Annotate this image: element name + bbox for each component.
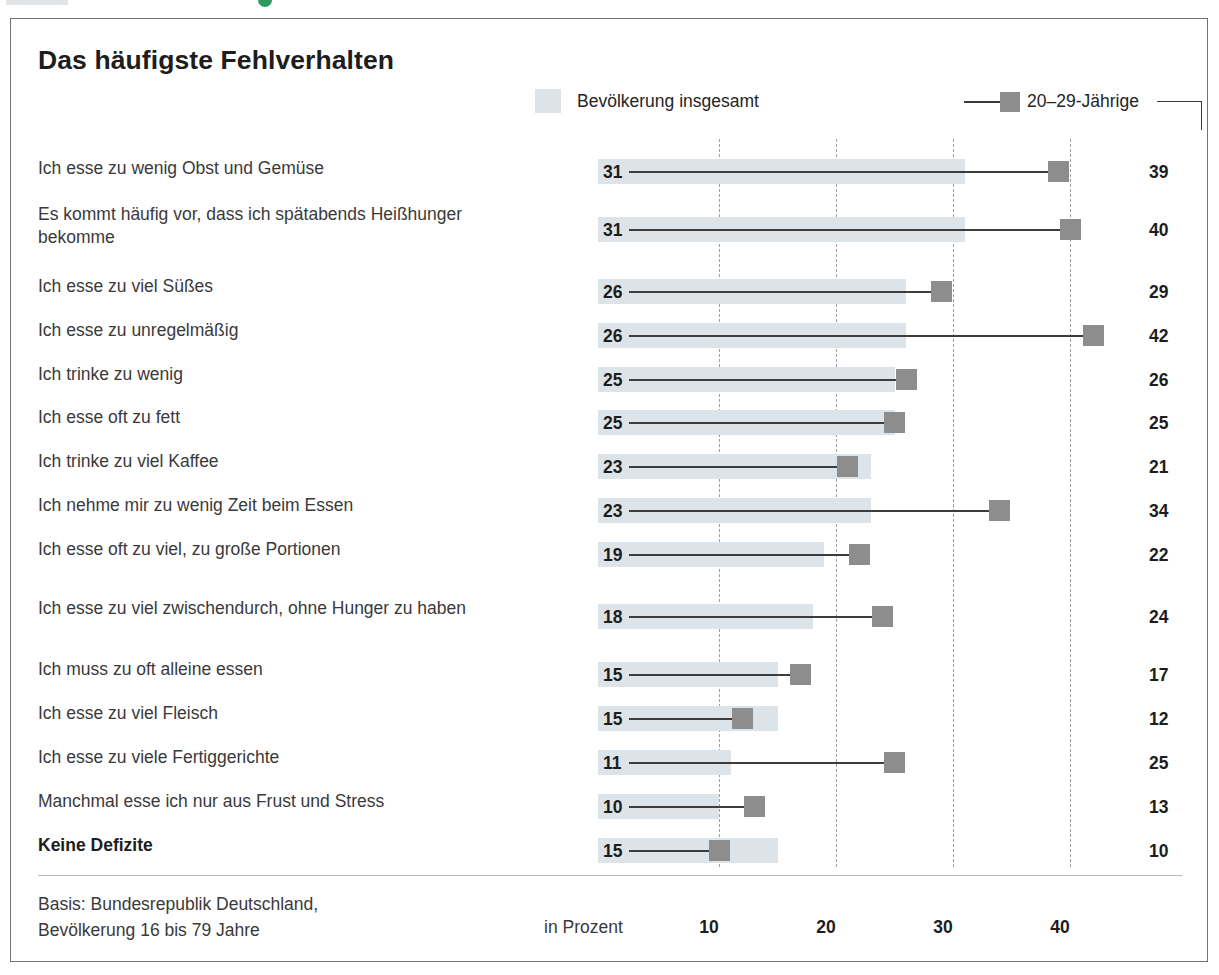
basis-note-line-1: Basis: Bundesrepublik Deutschland, (38, 891, 318, 917)
marker-20-29-jaehrige (884, 752, 905, 773)
value-bevoelkerung-insgesamt: 25 (603, 370, 622, 391)
value-20-29-jaehrige: 17 (1149, 665, 1189, 686)
value-bevoelkerung-insgesamt: 26 (603, 326, 622, 347)
axis-unit-label: in Prozent (544, 917, 623, 938)
value-20-29-jaehrige: 22 (1149, 545, 1189, 566)
marker-20-29-jaehrige (1083, 325, 1104, 346)
value-bevoelkerung-insgesamt: 31 (603, 220, 622, 241)
basis-note-line-2: Bevölkerung 16 bis 79 Jahre (38, 917, 318, 943)
value-bevoelkerung-insgesamt: 15 (603, 665, 622, 686)
legend-line-20-29-jaehrige (964, 101, 1000, 103)
marker-20-29-jaehrige (1060, 219, 1081, 240)
row-label: Ich esse zu viel Fleisch (38, 702, 538, 725)
connector-line (629, 510, 1000, 512)
gridline-40 (1070, 139, 1071, 867)
row-label: Ich esse zu viel zwischendurch, ohne Hun… (38, 597, 538, 620)
value-bevoelkerung-insgesamt: 15 (603, 841, 622, 862)
value-20-29-jaehrige: 10 (1149, 841, 1189, 862)
row-label: Ich esse zu viel Süßes (38, 275, 538, 298)
marker-20-29-jaehrige (849, 544, 870, 565)
legend-swatch-bevoelkerung-insgesamt (535, 89, 561, 113)
row-label: Ich nehme mir zu wenig Zeit beim Essen (38, 494, 538, 517)
value-bevoelkerung-insgesamt: 23 (603, 501, 622, 522)
marker-20-29-jaehrige (989, 500, 1010, 521)
axis-tick-10: 10 (699, 917, 718, 938)
row-label: Manchmal esse ich nur aus Frust und Stre… (38, 790, 538, 813)
connector-line (629, 466, 848, 468)
value-20-29-jaehrige: 42 (1149, 326, 1189, 347)
legend-leader-bracket (1157, 101, 1202, 130)
cropped-green-dot-icon (258, 0, 272, 7)
connector-line (629, 291, 941, 293)
connector-line (629, 616, 883, 618)
chart-legend: Bevölkerung insgesamt 20–29-Jährige (11, 75, 1209, 123)
value-bevoelkerung-insgesamt: 18 (603, 607, 622, 628)
legend-label-bevoelkerung-insgesamt: Bevölkerung insgesamt (577, 91, 759, 112)
row-label: Ich esse oft zu viel, zu große Portionen (38, 538, 538, 561)
value-20-29-jaehrige: 13 (1149, 797, 1189, 818)
gridline-30 (953, 139, 954, 867)
connector-line (629, 850, 719, 852)
page-title: Das häufigste Fehlverhalten (38, 45, 394, 76)
connector-line (629, 554, 859, 556)
axis-tick-40: 40 (1050, 917, 1069, 938)
marker-20-29-jaehrige (732, 708, 753, 729)
basis-note: Basis: Bundesrepublik Deutschland, Bevöl… (38, 891, 318, 943)
connector-line (629, 379, 906, 381)
marker-20-29-jaehrige (896, 369, 917, 390)
value-20-29-jaehrige: 24 (1149, 607, 1189, 628)
value-bevoelkerung-insgesamt: 10 (603, 797, 622, 818)
value-20-29-jaehrige: 25 (1149, 413, 1189, 434)
marker-20-29-jaehrige (931, 281, 952, 302)
footer-divider (38, 875, 1182, 876)
axis-tick-20: 20 (816, 917, 835, 938)
marker-20-29-jaehrige (837, 456, 858, 477)
value-20-29-jaehrige: 12 (1149, 709, 1189, 730)
value-20-29-jaehrige: 25 (1149, 753, 1189, 774)
row-label: Ich muss zu oft alleine essen (38, 658, 538, 681)
value-20-29-jaehrige: 21 (1149, 457, 1189, 478)
marker-20-29-jaehrige (872, 606, 893, 627)
value-bevoelkerung-insgesamt: 19 (603, 545, 622, 566)
row-label: Es kommt häufig vor, dass ich spätabends… (38, 203, 538, 249)
chart-plot-area: Ich esse zu wenig Obst und Gemüse3139Es … (11, 129, 1209, 871)
connector-line (629, 718, 742, 720)
connector-line (629, 229, 1070, 231)
marker-20-29-jaehrige (884, 412, 905, 433)
value-bevoelkerung-insgesamt: 15 (603, 709, 622, 730)
value-bevoelkerung-insgesamt: 26 (603, 282, 622, 303)
value-20-29-jaehrige: 29 (1149, 282, 1189, 303)
row-label: Ich trinke zu wenig (38, 363, 538, 386)
axis-tick-30: 30 (933, 917, 952, 938)
row-label: Ich trinke zu viel Kaffee (38, 450, 538, 473)
row-label: Ich esse zu viele Fertiggerichte (38, 746, 538, 769)
marker-20-29-jaehrige (709, 840, 730, 861)
chart-row: Keine Defizite1510 (11, 129, 1209, 173)
row-label: Ich esse oft zu fett (38, 406, 538, 429)
value-bevoelkerung-insgesamt: 11 (603, 753, 622, 774)
chart-card: Das häufigste Fehlverhalten Bevölkerung … (10, 18, 1208, 962)
cropped-grey-mark (6, 0, 68, 5)
marker-20-29-jaehrige (790, 664, 811, 685)
value-20-29-jaehrige: 26 (1149, 370, 1189, 391)
connector-line (629, 762, 895, 764)
row-label: Keine Defizite (38, 834, 538, 857)
legend-marker-20-29-jaehrige (1000, 92, 1020, 112)
value-bevoelkerung-insgesamt: 25 (603, 413, 622, 434)
connector-line (629, 335, 1093, 337)
connector-line (629, 674, 801, 676)
value-20-29-jaehrige: 34 (1149, 501, 1189, 522)
value-bevoelkerung-insgesamt: 23 (603, 457, 622, 478)
row-label: Ich esse zu unregelmäßig (38, 319, 538, 342)
connector-line (629, 806, 754, 808)
connector-line (629, 422, 895, 424)
legend-label-20-29-jaehrige: 20–29-Jährige (1027, 91, 1139, 112)
top-edge-artifacts (0, 0, 1219, 14)
value-20-29-jaehrige: 40 (1149, 220, 1189, 241)
marker-20-29-jaehrige (744, 796, 765, 817)
